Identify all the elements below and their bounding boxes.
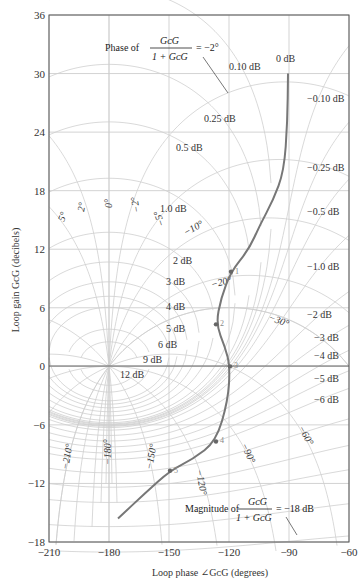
magnitude-contour-label: 0.10 dB bbox=[229, 61, 261, 72]
phase-contour-labels: 5°2°0°−2°−5°−10°−20°−30°−60°−90°−120°−15… bbox=[56, 196, 317, 496]
phase-contour-label: −210° bbox=[59, 443, 74, 470]
y-tick-label: 6 bbox=[40, 302, 46, 314]
magnitude-contour bbox=[49, 292, 349, 436]
phase-contour-label: −90° bbox=[239, 441, 258, 464]
magnitude-contour-label: 2 dB bbox=[173, 255, 193, 266]
magnitude-contour bbox=[49, 0, 271, 183]
magnitude-contour-label: −5 dB bbox=[314, 373, 339, 384]
phase-contour bbox=[49, 354, 217, 545]
magnitude-annotation-prefix: Magnitude of bbox=[185, 503, 240, 514]
phase-contour-label: 0° bbox=[103, 199, 114, 208]
phase-contour-label: −30° bbox=[267, 312, 290, 329]
marked-point bbox=[168, 469, 172, 473]
magnitude-annotation-denominator: 1 + GᴄG bbox=[236, 512, 272, 523]
magnitude-annotation-value: = −18 dB bbox=[276, 503, 314, 514]
phase-annotation-prefix: Phase of bbox=[105, 42, 140, 53]
y-tick-label: 0 bbox=[40, 360, 46, 372]
magnitude-contour-label: −0.25 dB bbox=[307, 162, 345, 173]
magnitude-annotation-numerator: GᴄG bbox=[248, 496, 267, 507]
phase-contour-label: −180° bbox=[102, 439, 113, 465]
loop-response-curve bbox=[118, 74, 288, 519]
magnitude-contour-labels: 0 dB0.10 dB0.25 dB0.5 dB1.0 dB2 dB3 dB4 … bbox=[120, 53, 345, 405]
magnitude-contour-label: 12 dB bbox=[120, 369, 145, 380]
x-tick-label: −120 bbox=[218, 546, 241, 558]
magnitude-contour bbox=[49, 232, 213, 310]
phase-annotation-value: = −2° bbox=[196, 42, 219, 53]
marked-point-label: 3 bbox=[234, 361, 238, 370]
magnitude-contour bbox=[49, 536, 349, 552]
magnitude-contour-label: 9 dB bbox=[143, 354, 163, 365]
y-axis-ticks: 363024181260−6−12−18 bbox=[28, 9, 46, 548]
y-tick-label: −6 bbox=[33, 419, 45, 431]
magnitude-contour-label: −4 dB bbox=[314, 350, 339, 361]
y-tick-label: 30 bbox=[34, 68, 46, 80]
y-tick-label: 12 bbox=[34, 243, 45, 255]
phase-contour-label: −2° bbox=[128, 196, 142, 213]
marked-point-label: 1 bbox=[235, 267, 239, 276]
marked-point bbox=[214, 322, 218, 326]
x-tick-label: −210 bbox=[38, 546, 61, 558]
marked-point bbox=[229, 269, 233, 273]
magnitude-contour-label: −2 dB bbox=[307, 309, 332, 320]
magnitude-contour-label: 3 dB bbox=[166, 276, 186, 287]
phase-annotation-leader bbox=[203, 57, 228, 93]
marked-point bbox=[228, 364, 232, 368]
magnitude-contour-label: 0 dB bbox=[276, 53, 296, 64]
x-tick-label: −180 bbox=[98, 546, 121, 558]
marked-point bbox=[214, 439, 218, 443]
magnitude-contour-label: 0.5 dB bbox=[176, 142, 203, 153]
phase-contour-label: −60° bbox=[296, 424, 316, 447]
magnitude-contour-label: −1.0 dB bbox=[307, 261, 340, 272]
phase-contour-label: 2° bbox=[75, 202, 87, 213]
magnitude-annotation-leader bbox=[286, 517, 297, 535]
nichols-chart: 0 dB0.10 dB0.25 dB0.5 dB1.0 dB2 dB3 dB4 … bbox=[0, 0, 361, 582]
phase-contour-label: 5° bbox=[56, 210, 69, 222]
phase-contour-label: −120° bbox=[194, 468, 209, 495]
marked-point-label: 2 bbox=[220, 319, 224, 328]
phase-contour bbox=[49, 366, 276, 551]
magnitude-contour-label: −0.10 dB bbox=[307, 93, 345, 104]
phase-contour-label: −10° bbox=[182, 218, 205, 238]
y-tick-label: −12 bbox=[28, 477, 45, 489]
marked-point-label: 5 bbox=[174, 466, 178, 475]
phase-annotation-numerator: GᴄG bbox=[160, 35, 179, 46]
y-tick-label: 18 bbox=[34, 185, 46, 197]
magnitude-contour bbox=[49, 122, 349, 426]
x-tick-label: −60 bbox=[340, 546, 358, 558]
marked-point-label: 4 bbox=[220, 436, 224, 445]
y-axis-label: Loop gain GᴄG (decibels) bbox=[10, 228, 22, 332]
magnitude-contour-label: 5 dB bbox=[166, 323, 186, 334]
phase-contour-label: −150° bbox=[143, 443, 158, 470]
phase-annotation-denominator: 1 + GᴄG bbox=[152, 51, 188, 62]
magnitude-contour-label: −0.5 dB bbox=[307, 206, 340, 217]
magnitude-contour-label: 1.0 dB bbox=[160, 203, 187, 214]
magnitude-contour bbox=[49, 303, 235, 420]
magnitude-contour-label: 4 dB bbox=[166, 301, 186, 312]
x-tick-label: −150 bbox=[158, 546, 181, 558]
x-axis-label: Loop phase ∠GᴄG (degrees) bbox=[152, 567, 268, 579]
magnitude-contour-label: −3 dB bbox=[314, 332, 339, 343]
y-tick-label: 36 bbox=[34, 9, 46, 21]
magnitude-contour-label: −6 dB bbox=[314, 394, 339, 405]
x-tick-label: −90 bbox=[280, 546, 298, 558]
magnitude-contour-label: 0.25 dB bbox=[204, 113, 236, 124]
magnitude-contour-label: 6 dB bbox=[158, 339, 178, 350]
y-tick-label: 24 bbox=[34, 126, 46, 138]
